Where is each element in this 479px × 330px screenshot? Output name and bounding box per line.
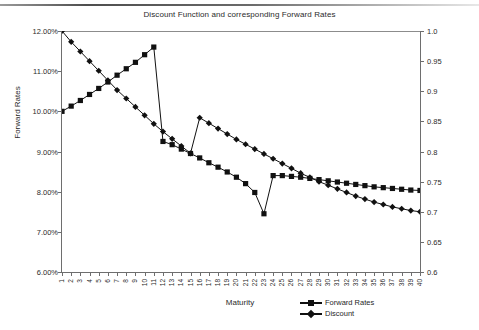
data-point-square bbox=[206, 160, 211, 165]
data-point-square bbox=[170, 142, 175, 147]
x-axis-tick-label: 35 bbox=[371, 279, 378, 286]
legend-label-discount: Discount bbox=[325, 309, 354, 318]
data-point-square bbox=[289, 174, 294, 179]
data-point-square bbox=[69, 104, 74, 109]
y-axis-left-tick-label: 12.00% bbox=[33, 27, 58, 36]
y-axis-right-tick bbox=[420, 121, 424, 122]
x-axis-labels: 1234567891011121314151617181920212223242… bbox=[0, 275, 479, 297]
chart-title: Discount Function and corresponding Forw… bbox=[0, 10, 479, 19]
x-axis-tick-label: 25 bbox=[279, 279, 286, 286]
x-axis-tick bbox=[209, 272, 210, 276]
x-axis-tick bbox=[145, 272, 146, 276]
x-axis-tick bbox=[264, 272, 265, 276]
data-point-diamond bbox=[279, 160, 285, 166]
data-point-square bbox=[408, 187, 413, 192]
x-axis-tick-label: 30 bbox=[325, 279, 332, 286]
y-axis-right-tick bbox=[420, 61, 424, 62]
x-axis-tick-label: 18 bbox=[215, 279, 222, 286]
x-axis-tick bbox=[236, 272, 237, 276]
y-axis-left-tick-label: 10.00% bbox=[33, 107, 58, 116]
data-point-diamond bbox=[380, 201, 386, 207]
legend-marker-square-icon bbox=[300, 298, 322, 307]
x-axis-tick bbox=[365, 272, 366, 276]
x-axis-tick-label: 22 bbox=[252, 279, 259, 286]
data-point-diamond bbox=[233, 136, 239, 142]
x-axis-tick-label: 40 bbox=[417, 279, 424, 286]
data-point-square bbox=[151, 44, 156, 49]
data-point-square bbox=[114, 73, 119, 78]
y-axis-right-tick bbox=[420, 182, 424, 183]
data-point-square bbox=[353, 182, 358, 187]
x-axis-tick bbox=[117, 272, 118, 276]
x-axis-tick bbox=[328, 272, 329, 276]
data-point-diamond bbox=[206, 120, 212, 126]
x-axis-tick-label: 34 bbox=[362, 279, 369, 286]
x-axis-tick bbox=[392, 272, 393, 276]
y-axis-right-tick-label: 1.0 bbox=[427, 27, 437, 36]
x-axis-title: Maturity bbox=[160, 298, 320, 307]
data-point-square bbox=[234, 175, 239, 180]
x-axis-tick bbox=[383, 272, 384, 276]
x-axis-tick-label: 26 bbox=[288, 279, 295, 286]
x-axis-tick bbox=[282, 272, 283, 276]
x-axis-tick bbox=[255, 272, 256, 276]
x-axis-tick bbox=[227, 272, 228, 276]
data-point-square bbox=[87, 92, 92, 97]
x-axis-tick bbox=[135, 272, 136, 276]
data-point-square bbox=[197, 155, 202, 160]
x-axis-tick-label: 28 bbox=[307, 279, 314, 286]
x-axis-tick-label: 31 bbox=[334, 279, 341, 286]
data-point-diamond bbox=[288, 165, 294, 171]
x-axis-tick bbox=[246, 272, 247, 276]
data-point-square bbox=[362, 183, 367, 188]
x-axis-tick bbox=[420, 272, 421, 276]
x-axis-tick bbox=[347, 272, 348, 276]
data-point-square bbox=[78, 98, 83, 103]
x-axis-tick-label: 11 bbox=[151, 279, 158, 286]
x-axis-tick-label: 24 bbox=[270, 279, 277, 286]
y-axis-right-tick-label: 0.85 bbox=[427, 117, 442, 126]
y-axis-right-tick-label: 0.7 bbox=[427, 207, 437, 216]
x-axis-tick bbox=[291, 272, 292, 276]
data-point-diamond bbox=[261, 151, 267, 157]
y-axis-right-tick bbox=[420, 212, 424, 213]
x-axis-tick bbox=[99, 272, 100, 276]
x-axis-tick-label: 27 bbox=[298, 279, 305, 286]
x-axis-tick bbox=[319, 272, 320, 276]
y-axis-right-tick-label: 0.9 bbox=[427, 87, 437, 96]
x-axis-tick-label: 13 bbox=[169, 279, 176, 286]
x-axis-tick-label: 9 bbox=[132, 279, 139, 283]
x-axis-tick bbox=[301, 272, 302, 276]
data-point-square bbox=[225, 169, 230, 174]
x-axis-tick bbox=[172, 272, 173, 276]
x-axis-tick-label: 12 bbox=[160, 279, 167, 286]
data-point-diamond bbox=[408, 207, 414, 213]
data-point-square bbox=[142, 52, 147, 57]
legend-item-forward-rates: Forward Rates bbox=[300, 297, 374, 308]
x-axis-tick-label: 39 bbox=[408, 279, 415, 286]
data-point-square bbox=[252, 190, 257, 195]
y-axis-right-tick-label: 0.75 bbox=[427, 177, 442, 186]
x-axis-tick bbox=[163, 272, 164, 276]
data-point-diamond bbox=[389, 204, 395, 210]
x-axis-tick-label: 10 bbox=[142, 279, 149, 286]
y-axis-left-tick bbox=[58, 31, 62, 32]
y-axis-right-tick-label: 0.8 bbox=[427, 147, 437, 156]
data-point-square bbox=[62, 109, 65, 114]
x-axis-tick-label: 6 bbox=[105, 279, 112, 283]
data-point-diamond bbox=[353, 193, 359, 199]
data-point-square bbox=[271, 173, 276, 178]
data-point-diamond bbox=[252, 146, 258, 152]
x-axis-tick-label: 37 bbox=[389, 279, 396, 286]
series-line bbox=[62, 47, 420, 214]
x-axis-tick-label: 17 bbox=[206, 279, 213, 286]
x-axis-tick bbox=[181, 272, 182, 276]
x-axis-tick-label: 19 bbox=[224, 279, 231, 286]
data-point-diamond bbox=[334, 186, 340, 192]
data-point-square bbox=[399, 187, 404, 192]
x-axis-tick bbox=[62, 272, 63, 276]
x-axis-tick bbox=[126, 272, 127, 276]
x-axis-tick bbox=[402, 272, 403, 276]
y-axis-left-title: Forward Rates bbox=[13, 53, 22, 173]
x-axis-tick bbox=[374, 272, 375, 276]
